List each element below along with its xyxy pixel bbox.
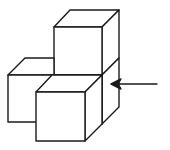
cube-stack-drawing (0, 0, 170, 150)
arrow-icon (111, 79, 157, 89)
top-cube (54, 10, 119, 75)
front-cube (36, 75, 102, 141)
cube-diagram (0, 0, 170, 150)
